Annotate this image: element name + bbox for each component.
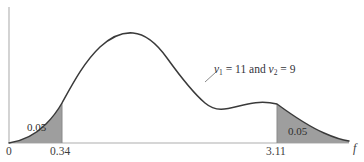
x-axis-title: f xyxy=(353,142,356,154)
right-tail-shaded-area xyxy=(277,104,349,143)
right-tail-area-label: 0.05 xyxy=(288,126,307,137)
distribution-plot xyxy=(0,0,364,162)
equals-2: = xyxy=(277,63,289,75)
nu-1-value: 11 xyxy=(235,63,246,75)
nu-2-symbol: ν xyxy=(269,63,274,75)
annotation-conjunction: and xyxy=(246,63,268,75)
x-tick-label-zero: 0 xyxy=(6,146,12,158)
x-tick-label-upper-critical: 3.11 xyxy=(266,146,286,158)
equals-1: = xyxy=(223,63,235,75)
nu-2-subscript: 2 xyxy=(274,68,278,77)
nu-2-value: 9 xyxy=(290,63,296,75)
nu-1-subscript: 1 xyxy=(219,68,223,77)
x-tick-label-lower-critical: 0.34 xyxy=(50,146,70,158)
left-tail-area-label: 0.05 xyxy=(27,122,46,133)
degrees-of-freedom-annotation: ν1 = 11 and ν2 = 9 xyxy=(214,64,295,76)
f-distribution-figure: 0 0.34 3.11 f 0.05 0.05 ν1 = 11 and ν2 =… xyxy=(0,0,364,162)
